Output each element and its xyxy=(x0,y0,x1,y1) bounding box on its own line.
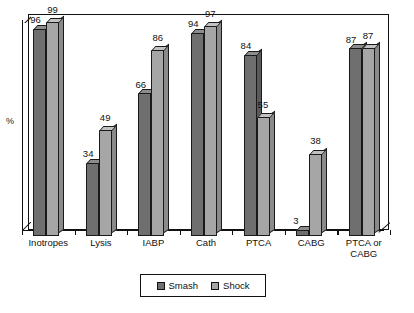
x-axis-tick xyxy=(390,230,391,235)
bar-value-label: 34 xyxy=(83,149,94,159)
plot-area: 969934496686949784553388787 xyxy=(22,14,390,236)
bar-shock: 49 xyxy=(99,130,112,236)
bar-pair: 6686 xyxy=(138,50,164,236)
x-axis-tick xyxy=(232,230,233,235)
bar-face xyxy=(309,154,322,236)
bar-chart: % 969934496686949784553388787 InotropesL… xyxy=(0,0,414,313)
bar-pair: 3449 xyxy=(86,130,112,236)
bar-face xyxy=(46,22,59,236)
bar-pair: 9699 xyxy=(33,22,59,236)
bar-smash: 34 xyxy=(86,163,99,236)
bar-group: 338 xyxy=(285,14,338,236)
bar-value-label: 55 xyxy=(258,100,269,110)
bar-shock: 97 xyxy=(204,26,217,236)
bar-group: 9497 xyxy=(180,14,233,236)
bar-pair: 9497 xyxy=(191,26,217,236)
x-axis-label: CABG xyxy=(285,237,338,259)
bar-face xyxy=(244,55,257,236)
x-axis-label: Lysis xyxy=(75,237,128,259)
bar-face xyxy=(86,163,99,236)
x-axis-tick xyxy=(127,230,128,235)
bar-face xyxy=(191,33,204,236)
bar-shock: 86 xyxy=(151,50,164,236)
bar-groups: 969934496686949784553388787 xyxy=(22,14,390,236)
bar-smash: 94 xyxy=(191,33,204,236)
bar-side xyxy=(270,111,275,233)
bar-shock: 55 xyxy=(257,117,270,236)
x-axis-ticks xyxy=(22,230,390,236)
bar-side xyxy=(59,16,64,233)
bar-value-label: 38 xyxy=(310,136,321,146)
bar-face xyxy=(151,50,164,236)
bar-face xyxy=(257,117,270,236)
x-axis-label: Cath xyxy=(180,237,233,259)
bar-side xyxy=(375,42,380,233)
legend-swatch-shock xyxy=(211,282,219,290)
bar-smash: 84 xyxy=(244,55,257,236)
x-axis-tick xyxy=(75,230,76,235)
bar-side xyxy=(217,20,222,233)
bar-value-label: 87 xyxy=(363,31,374,41)
bar-side xyxy=(322,148,327,233)
bar-smash: 96 xyxy=(33,29,46,236)
bar-shock: 99 xyxy=(46,22,59,236)
legend-item-smash: Smash xyxy=(157,280,199,291)
bar-shock: 38 xyxy=(309,154,322,236)
x-axis-label: IABP xyxy=(127,237,180,259)
x-axis-label: PTCA xyxy=(232,237,285,259)
bar-face xyxy=(99,130,112,236)
bar-value-label: 97 xyxy=(205,9,216,19)
bar-side xyxy=(164,44,169,233)
bar-value-label: 49 xyxy=(100,113,111,123)
legend-item-shock: Shock xyxy=(211,280,249,291)
y-axis-label: % xyxy=(6,116,14,126)
bar-group: 8455 xyxy=(232,14,285,236)
bar-value-label: 99 xyxy=(47,5,58,15)
bar-group: 6686 xyxy=(127,14,180,236)
legend-label-smash: Smash xyxy=(169,280,199,291)
bar-value-label: 94 xyxy=(188,19,199,29)
x-axis-tick xyxy=(337,230,338,235)
x-axis-label: PTCA or CABG xyxy=(337,237,390,259)
x-axis-tick xyxy=(180,230,181,235)
bar-smash: 66 xyxy=(138,93,151,236)
bar-shock: 87 xyxy=(362,48,375,236)
legend-swatch-smash xyxy=(157,282,165,290)
bar-pair: 8787 xyxy=(349,48,375,236)
bar-pair: 8455 xyxy=(244,55,270,236)
x-axis-tick xyxy=(22,230,23,235)
bar-value-label: 84 xyxy=(241,41,252,51)
bar-face xyxy=(138,93,151,236)
bar-value-label: 66 xyxy=(135,80,146,90)
bar-value-label: 86 xyxy=(152,33,163,43)
legend-label-shock: Shock xyxy=(223,280,249,291)
bar-group: 3449 xyxy=(75,14,128,236)
x-axis-tick xyxy=(285,230,286,235)
bar-value-label: 96 xyxy=(30,15,41,25)
bar-group: 9699 xyxy=(22,14,75,236)
bar-face xyxy=(362,48,375,236)
bar-face xyxy=(33,29,46,236)
bar-pair: 338 xyxy=(296,154,322,236)
bar-side xyxy=(112,124,117,233)
bar-face xyxy=(349,48,362,236)
bar-face xyxy=(204,26,217,236)
bar-smash: 87 xyxy=(349,48,362,236)
x-axis-labels: InotropesLysisIABPCathPTCACABGPTCA or CA… xyxy=(22,237,390,259)
bar-value-label: 3 xyxy=(293,216,298,226)
bar-group: 8787 xyxy=(337,14,390,236)
x-axis-label: Inotropes xyxy=(22,237,75,259)
bar-value-label: 87 xyxy=(346,35,357,45)
chart-legend: Smash Shock xyxy=(140,274,266,297)
